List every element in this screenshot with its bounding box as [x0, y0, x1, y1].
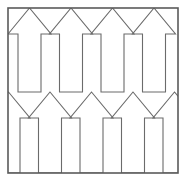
diagram-background — [0, 0, 187, 181]
arrow-tessellation-diagram — [0, 0, 187, 181]
figure-root — [0, 0, 187, 181]
